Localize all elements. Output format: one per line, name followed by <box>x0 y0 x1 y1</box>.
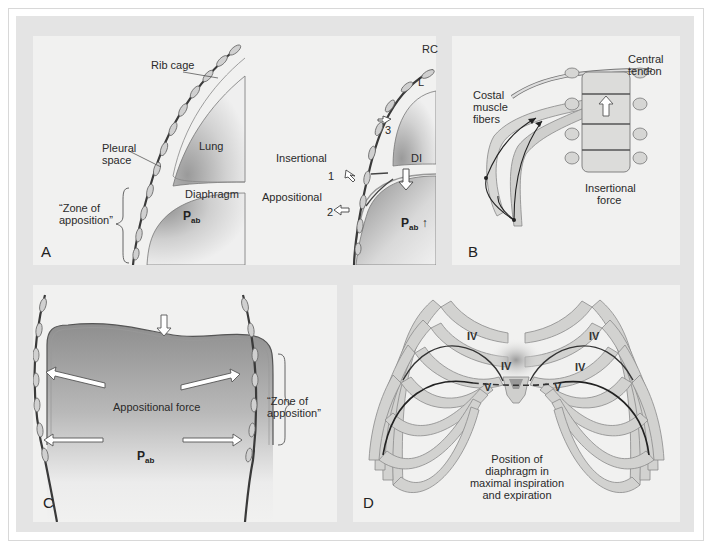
caption-line-2: diaphragm in <box>467 465 567 477</box>
label-rc: RC <box>422 43 438 55</box>
diaphragm-dome <box>47 324 273 522</box>
panel-letter-d: D <box>363 494 374 511</box>
label-appositional-force: Appositional force <box>113 401 200 413</box>
zone-brace <box>116 188 129 263</box>
label-insertional: Insertional <box>585 182 636 194</box>
diaphragm-shape <box>147 193 245 265</box>
label-num-2: 2 <box>327 206 333 218</box>
label-pleural-2: space <box>102 154 131 166</box>
rib-label-v-2: V <box>554 381 562 393</box>
panel-letter-c: C <box>43 494 54 511</box>
appositional-arrow <box>334 205 349 215</box>
label-zone-c-1: “Zone of <box>267 395 308 407</box>
label-di: DI <box>411 152 422 164</box>
label-pab-c: Pab <box>137 449 154 465</box>
label-central: Central <box>628 53 663 65</box>
caption-line-1: Position of <box>467 453 567 465</box>
lung-shape <box>173 76 245 186</box>
rib-label-iv-2: IV <box>501 360 512 372</box>
label-zone-2: apposition” <box>59 214 113 226</box>
label-insertional: Insertional <box>276 152 327 164</box>
label-lung: Lung <box>199 140 223 152</box>
panel-c: Appositional force Pab “Zone of appositi… <box>33 285 337 522</box>
panel-letter-b: B <box>468 243 478 260</box>
label-pab-a-right: Pab ↑ <box>401 216 428 232</box>
panel-letter-a: A <box>41 243 51 260</box>
label-force: force <box>597 194 621 206</box>
label-fibers: fibers <box>473 113 500 125</box>
label-zone-c-2: apposition” <box>267 407 321 419</box>
panel-a: Rib cage Pleural space Lung Diaphragm “Z… <box>33 36 436 265</box>
rib-label-v-1: V <box>484 381 492 393</box>
rib-label-iv-3: IV <box>589 330 600 342</box>
label-diaphragm: Diaphragm <box>185 188 239 200</box>
label-pab-a: Pab <box>183 209 200 225</box>
label-zone-1: “Zone of <box>59 202 100 214</box>
label-tendon: tendon <box>628 65 662 77</box>
label-pleural-1: Pleural <box>102 142 136 154</box>
panel-a-illustration <box>33 36 436 265</box>
label-appositional: Appositional <box>262 191 322 203</box>
rib-label-iv-1: IV <box>467 330 478 342</box>
label-rib-cage: Rib cage <box>151 59 194 71</box>
panel-d: IV IV IV IV V V Position of diaphragm in… <box>353 285 680 522</box>
panel-b: Central tendon Costal muscle fibers Inse… <box>452 36 680 265</box>
caption-line-3: maximal inspiration <box>457 477 577 489</box>
label-costal: Costal <box>473 89 504 101</box>
sternum-shadow <box>488 338 544 382</box>
label-num-3: 3 <box>385 124 391 136</box>
label-num-1: 1 <box>328 170 334 182</box>
label-l: L <box>418 76 424 88</box>
caption-line-4: and expiration <box>457 489 577 501</box>
insertional-arrow <box>345 170 355 182</box>
rib-label-iv-4: IV <box>575 361 586 373</box>
label-muscle: muscle <box>473 101 508 113</box>
